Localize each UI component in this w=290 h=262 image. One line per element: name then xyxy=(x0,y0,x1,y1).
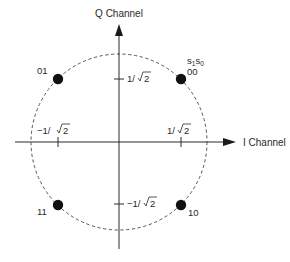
tick-label-q-positive: 1/ 2 xyxy=(127,72,151,84)
svg-text:1/: 1/ xyxy=(167,125,175,136)
svg-text:2: 2 xyxy=(63,125,68,136)
tick-label-i-negative: −1/ 2 xyxy=(37,124,70,136)
svg-text:−1/: −1/ xyxy=(127,198,141,209)
q-channel-label: Q Channel xyxy=(95,8,143,19)
bit-order-label: s1s0 xyxy=(187,55,204,67)
i-channel-label: I Channel xyxy=(243,137,286,148)
tick-label-q-negative: −1/ 2 xyxy=(127,197,157,209)
tick-label-i-positive: 1/ 2 xyxy=(167,124,191,136)
svg-text:2: 2 xyxy=(144,73,149,84)
point-00-label: 00 xyxy=(187,66,198,77)
svg-text:1/: 1/ xyxy=(127,73,135,84)
point-01-label: 01 xyxy=(37,65,48,76)
svg-text:2: 2 xyxy=(184,125,189,136)
svg-text:2: 2 xyxy=(150,198,155,209)
point-01 xyxy=(53,74,63,84)
qpsk-constellation-diagram: Q Channel I Channel −1/ 2 1/ 2 1/ 2 −1/ … xyxy=(0,0,290,262)
point-11 xyxy=(53,200,63,210)
svg-text:−1/: −1/ xyxy=(37,125,51,136)
point-00 xyxy=(176,74,186,84)
i-axis-arrow-icon xyxy=(223,138,236,146)
point-10 xyxy=(176,200,186,210)
point-11-label: 11 xyxy=(37,206,47,217)
point-10-label: 10 xyxy=(188,207,199,218)
q-axis-arrow-icon xyxy=(115,24,123,36)
